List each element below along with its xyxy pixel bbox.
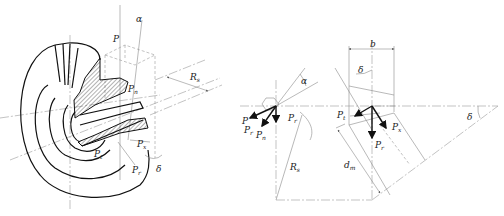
label-b: b	[370, 39, 376, 49]
label-delta: δ	[156, 164, 161, 174]
label-delta-top: δ	[358, 65, 363, 75]
right-section-view: b δ Pt Px Pr dm δ	[335, 39, 498, 200]
bevel-gear-force-diagram: P α Pn Rs Pt Px Pr δ P Pr Pn α Pr Rs	[0, 0, 504, 216]
label-Pr-mid: Pr	[287, 113, 298, 124]
label-dm: dm	[344, 160, 356, 171]
label-Pr-mid-left: Pr	[243, 125, 254, 136]
label-Pr: Pr	[131, 165, 142, 176]
label-alpha: α	[136, 14, 142, 24]
label-Px: Px	[136, 139, 147, 150]
left-isometric-view: P α Pn Rs Pt Px Pr δ	[0, 5, 222, 210]
label-Rs: Rs	[189, 72, 200, 83]
label-Pt: Pt	[93, 149, 103, 160]
label-delta-right: δ	[467, 112, 472, 122]
label-Pn-mid: Pn	[255, 130, 266, 141]
label-Px-right: Px	[391, 122, 402, 133]
label-Pt-right: Pt	[336, 110, 346, 121]
label-Pr-right: Pr	[374, 140, 385, 151]
label-alpha-mid: α	[301, 76, 307, 86]
label-P: P	[112, 34, 120, 44]
label-Rs-mid: Rs	[289, 162, 300, 173]
label-Pn: Pn	[127, 84, 138, 95]
